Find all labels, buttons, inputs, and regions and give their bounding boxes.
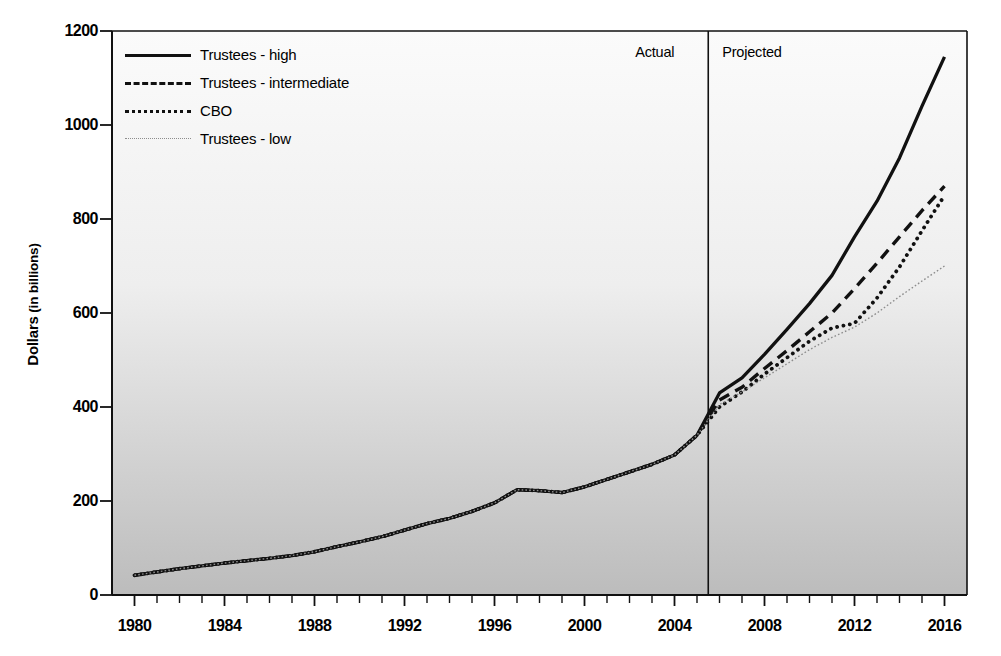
x-tick-label-2000: 2000 [550, 617, 620, 635]
x-tick-label-2008: 2008 [730, 617, 800, 635]
legend-item[interactable]: CBO [125, 96, 349, 124]
legend-line-swatch-icon [125, 47, 191, 61]
x-tick-label-2016: 2016 [910, 617, 980, 635]
x-tick-label-2012: 2012 [820, 617, 890, 635]
y-tick-label-600: 600 [42, 304, 98, 322]
annotation-projected: Projected [722, 44, 781, 60]
x-tick-label-2004: 2004 [640, 617, 710, 635]
legend-line-swatch-icon [125, 103, 191, 117]
y-tick-label-800: 800 [42, 210, 98, 228]
chart-legend: Trustees - highTrustees - intermediateCB… [125, 40, 349, 152]
x-tick-label-1980: 1980 [100, 617, 170, 635]
x-tick-label-1992: 1992 [370, 617, 440, 635]
annotation-actual: Actual [635, 44, 674, 60]
y-tick-label-1200: 1200 [42, 22, 98, 40]
x-tick-label-1988: 1988 [280, 617, 350, 635]
legend-item[interactable]: Trustees - intermediate [125, 68, 349, 96]
y-axis-title-unit: (in billions) [26, 243, 41, 316]
y-tick-label-1000: 1000 [42, 116, 98, 134]
y-tick-label-400: 400 [42, 398, 98, 416]
legend-line-swatch-icon [125, 75, 191, 89]
legend-item-label: Trustees - intermediate [200, 74, 349, 91]
legend-item[interactable]: Trustees - high [125, 40, 349, 68]
legend-item-label: Trustees - high [200, 46, 297, 63]
chart-container: Dollars (in billions) 020040060080010001… [0, 0, 1001, 656]
legend-item-label: CBO [200, 102, 232, 119]
legend-line-swatch-icon [125, 131, 191, 145]
x-tick-label-1984: 1984 [190, 617, 260, 635]
y-tick-label-0: 0 [42, 586, 98, 604]
y-axis-title-bold: Dollars [24, 316, 41, 365]
y-axis-title: Dollars (in billions) [24, 195, 41, 415]
legend-item[interactable]: Trustees - low [125, 124, 349, 152]
legend-item-label: Trustees - low [200, 130, 291, 147]
x-tick-label-1996: 1996 [460, 617, 530, 635]
y-tick-label-200: 200 [42, 492, 98, 510]
